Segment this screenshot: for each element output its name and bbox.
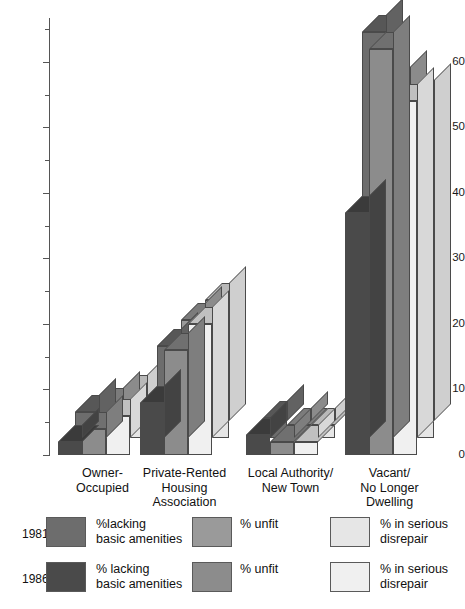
y-tick-40 [43, 193, 49, 194]
category-label-line: Dwelling [330, 495, 450, 510]
chart-legend: 1981%lackingbasic amenities% unfit% in s… [0, 513, 465, 609]
legend-label-line: disrepair [380, 532, 448, 547]
bar [140, 0, 164, 470]
y-axis-line [49, 18, 50, 456]
plot-area: 0102030405060 [0, 0, 465, 470]
bar [345, 0, 369, 470]
bar-side-face [393, 15, 410, 438]
legend-swatch [192, 517, 232, 547]
bar [246, 0, 270, 470]
bar-side-face [417, 67, 434, 438]
legend-label-line: basic amenities [96, 577, 182, 592]
bar-front-face [140, 403, 164, 455]
legend-row-1986: 1986% lackingbasic amenities% unfit% in … [0, 558, 465, 600]
y-tick-10 [43, 389, 49, 390]
legend-row-1981: 1981%lackingbasic amenities% unfit% in s… [0, 513, 465, 555]
category-label-line: No Longer [330, 481, 450, 496]
category-label-line: Housing [125, 481, 245, 496]
legend-item-label: % in seriousdisrepair [380, 517, 448, 546]
bar-side-face [434, 63, 451, 421]
legend-swatch [192, 562, 232, 592]
y-tick-45 [45, 160, 49, 161]
y-tick-55 [45, 95, 49, 96]
bar-front-face [246, 435, 270, 455]
legend-swatch [46, 517, 86, 547]
bar [270, 0, 294, 470]
category-label-2: Private-RentedHousingAssociation [125, 466, 245, 510]
bar-front-face [58, 442, 82, 455]
y-tick-50 [43, 127, 49, 128]
legend-item-label: % unfit [240, 517, 278, 532]
legend-swatch [330, 562, 370, 592]
legend-label-line: disrepair [380, 577, 448, 592]
bar-side-face [212, 290, 229, 438]
bar [58, 0, 82, 470]
legend-swatch [46, 562, 86, 592]
legend-label-line: % unfit [240, 517, 278, 532]
bar-side-face [229, 266, 246, 421]
legend-label-line: basic amenities [96, 532, 182, 547]
legend-swatch [330, 517, 370, 547]
y-tick-15 [45, 357, 49, 358]
legend-label-line: % unfit [240, 562, 278, 577]
legend-label-line: %lacking [96, 517, 182, 532]
legend-item-label: % unfit [240, 562, 278, 577]
legend-label-line: % lacking [96, 562, 182, 577]
y-tick-5 [45, 422, 49, 423]
bar-front-face [270, 442, 294, 455]
bar-front-face [294, 442, 318, 455]
legend-label-line: % in serious [380, 562, 448, 577]
legend-year-label: 1986 [22, 572, 49, 586]
bar-front-face [345, 213, 369, 455]
legend-item-label: % in seriousdisrepair [380, 562, 448, 591]
bar [294, 0, 318, 470]
category-label-4: Vacant/No LongerDwelling [330, 466, 450, 510]
legend-label-line: % in serious [380, 517, 448, 532]
y-tick-30 [43, 258, 49, 259]
legend-item-label: %lackingbasic amenities [96, 517, 182, 546]
y-tick-0 [43, 455, 49, 456]
legend-year-label: 1981 [22, 527, 49, 541]
bar-side-face [188, 316, 205, 438]
y-axis-cap [45, 29, 49, 30]
chart-root: 0102030405060 Owner-OccupiedPrivate-Rent… [0, 0, 465, 609]
category-label-line: Association [125, 495, 245, 510]
y-tick-20 [43, 324, 49, 325]
y-tick-label-0: 0 [431, 449, 465, 461]
bar [82, 0, 106, 470]
y-tick-35 [45, 226, 49, 227]
legend-item-label: % lackingbasic amenities [96, 562, 182, 591]
y-tick-25 [45, 291, 49, 292]
y-tick-60 [43, 62, 49, 63]
bar-side-face [369, 179, 386, 438]
